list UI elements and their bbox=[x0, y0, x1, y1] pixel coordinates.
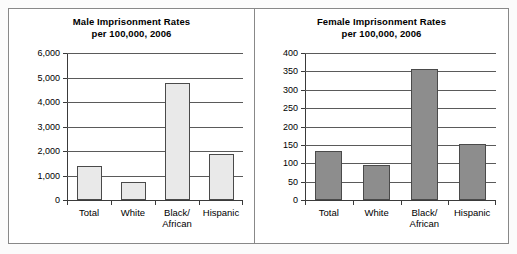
female-y-tick-label: 400 bbox=[283, 49, 298, 58]
female-bar-total bbox=[315, 151, 342, 200]
chart-title-female: Female Imprisonment Rates per 100,000, 2… bbox=[255, 16, 508, 39]
male-x-label: White bbox=[121, 207, 145, 218]
plot-area-male: 01,0002,0003,0004,0005,0006,000TotalWhit… bbox=[67, 53, 243, 201]
male-y-tick-label: 3,000 bbox=[37, 122, 60, 131]
male-bar-total bbox=[77, 166, 102, 200]
male-bar-hispanic bbox=[209, 154, 234, 200]
male-gridline bbox=[67, 151, 243, 152]
female-y-tick-label: 100 bbox=[283, 159, 298, 168]
female-bar-white bbox=[363, 165, 390, 200]
female-x-tick-end bbox=[305, 201, 306, 205]
female-y-tick-label: 0 bbox=[293, 196, 298, 205]
female-gridline bbox=[305, 71, 496, 72]
male-x-label: Black/ African bbox=[162, 207, 192, 229]
male-y-tick bbox=[63, 78, 67, 79]
female-y-tick-label: 50 bbox=[288, 177, 298, 186]
female-y-tick bbox=[301, 53, 305, 54]
female-x-label: Hispanic bbox=[454, 207, 490, 218]
female-x-tick bbox=[401, 201, 402, 205]
male-y-tick bbox=[63, 176, 67, 177]
chart-panel-female: Female Imprisonment Rates per 100,000, 2… bbox=[254, 8, 509, 244]
male-y-tick-label: 4,000 bbox=[37, 98, 60, 107]
chart-title-male-line1: Male Imprisonment Rates bbox=[9, 16, 254, 28]
male-y-tick bbox=[63, 127, 67, 128]
plot-area-female: 050100150200250300350400TotalWhiteBlack/… bbox=[305, 53, 496, 201]
female-y-tick bbox=[301, 182, 305, 183]
male-x-label: Total bbox=[79, 207, 99, 218]
male-y-tick-label: 5,000 bbox=[37, 73, 60, 82]
female-x-tick bbox=[353, 201, 354, 205]
male-y-tick bbox=[63, 102, 67, 103]
female-x-tick bbox=[448, 201, 449, 205]
female-bar-blackafrican bbox=[411, 69, 438, 200]
female-y-tick-label: 300 bbox=[283, 85, 298, 94]
male-gridline bbox=[67, 78, 243, 79]
chart-panel-male: Male Imprisonment Rates per 100,000, 200… bbox=[8, 8, 255, 244]
female-y-tick-label: 350 bbox=[283, 67, 298, 76]
chart-title-male: Male Imprisonment Rates per 100,000, 200… bbox=[9, 16, 254, 39]
female-gridline bbox=[305, 127, 496, 128]
male-y-tick bbox=[63, 53, 67, 54]
male-gridline bbox=[67, 53, 243, 54]
male-y-tick-label: 1,000 bbox=[37, 171, 60, 180]
male-x-tick bbox=[199, 201, 200, 205]
male-bar-blackafrican bbox=[165, 83, 190, 200]
figure-sheet: Male Imprisonment Rates per 100,000, 200… bbox=[0, 0, 517, 254]
chart-title-female-line2: per 100,000, 2006 bbox=[255, 28, 508, 40]
male-gridline bbox=[67, 127, 243, 128]
female-y-tick bbox=[301, 163, 305, 164]
female-x-tick-end bbox=[495, 201, 496, 205]
male-x-tick-end bbox=[242, 201, 243, 205]
chart-title-female-line1: Female Imprisonment Rates bbox=[255, 16, 508, 28]
chart-title-male-line2: per 100,000, 2006 bbox=[9, 28, 254, 40]
male-y-tick-label: 0 bbox=[55, 196, 60, 205]
male-y-tick-label: 6,000 bbox=[37, 49, 60, 58]
female-bar-hispanic bbox=[459, 144, 486, 200]
female-y-tick-label: 150 bbox=[283, 140, 298, 149]
female-x-label: Black/ African bbox=[410, 207, 440, 229]
male-x-tick-end bbox=[67, 201, 68, 205]
male-x-label: Hispanic bbox=[203, 207, 239, 218]
female-gridline bbox=[305, 53, 496, 54]
male-y-tick bbox=[63, 151, 67, 152]
female-y-tick bbox=[301, 145, 305, 146]
male-gridline bbox=[67, 102, 243, 103]
male-x-tick bbox=[111, 201, 112, 205]
female-x-label: White bbox=[364, 207, 388, 218]
female-gridline bbox=[305, 108, 496, 109]
female-y-tick bbox=[301, 90, 305, 91]
female-y-tick bbox=[301, 108, 305, 109]
female-x-label: Total bbox=[319, 207, 339, 218]
male-y-tick-label: 2,000 bbox=[37, 147, 60, 156]
male-x-tick bbox=[155, 201, 156, 205]
female-y-tick-label: 200 bbox=[283, 122, 298, 131]
female-y-tick-label: 250 bbox=[283, 104, 298, 113]
female-y-tick bbox=[301, 127, 305, 128]
female-y-tick bbox=[301, 71, 305, 72]
female-gridline bbox=[305, 90, 496, 91]
male-bar-white bbox=[121, 182, 146, 200]
